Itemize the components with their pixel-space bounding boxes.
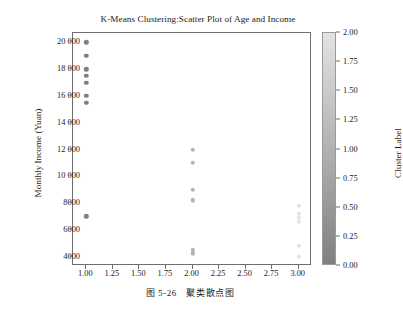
colorbar-tick-label: 0.75 (343, 173, 358, 182)
x-axis-tick-mark (245, 265, 246, 269)
plot-area (72, 32, 311, 265)
scatter-point (297, 254, 301, 258)
y-axis-tick-mark (68, 228, 72, 229)
colorbar (322, 32, 336, 265)
y-axis-tick-mark (68, 94, 72, 95)
colorbar-gradient (322, 32, 336, 265)
x-axis-tick-mark (138, 265, 139, 269)
x-axis-tick-mark (192, 265, 193, 269)
y-axis-label: Monthly Income (Yuan) (33, 53, 43, 253)
colorbar-tick-mark (336, 32, 340, 33)
x-axis-tick-mark (218, 265, 219, 269)
scatter-point (297, 220, 301, 224)
y-axis-tick-mark (68, 148, 72, 149)
y-axis-tick-mark (68, 255, 72, 256)
scatter-point (297, 204, 301, 208)
scatter-points-layer (73, 33, 310, 264)
x-axis-tick-mark (298, 265, 299, 269)
colorbar-label: Cluster Label (393, 73, 403, 233)
scatter-point (84, 100, 88, 104)
colorbar-tick-mark (336, 265, 340, 266)
y-axis-tick-mark (68, 175, 72, 176)
x-axis-tick-label: 1.75 (158, 269, 173, 278)
scatter-point (84, 94, 88, 98)
scatter-point (84, 80, 88, 84)
colorbar-tick-mark (336, 177, 340, 178)
colorbar-tick-label: 0.25 (343, 231, 358, 240)
x-axis-tick-label: 1.50 (131, 269, 146, 278)
colorbar-tick-label: 1.00 (343, 144, 358, 153)
y-axis-tick-mark (68, 41, 72, 42)
x-axis-tick-label: 3.00 (290, 269, 305, 278)
colorbar-tick-mark (336, 61, 340, 62)
colorbar-tick-mark (336, 148, 340, 149)
scatter-point (190, 161, 194, 165)
scatter-point (84, 67, 88, 71)
colorbar-tick-label: 2.00 (343, 28, 358, 37)
y-axis-tick-mark (68, 202, 72, 203)
colorbar-tick-mark (336, 90, 340, 91)
scatter-point (190, 252, 194, 256)
figure-caption: 图 5-26 聚类散点图 (0, 286, 380, 299)
x-axis-tick-label: 2.25 (211, 269, 226, 278)
colorbar-tick-mark (336, 206, 340, 207)
x-axis-tick-mark (112, 265, 113, 269)
x-axis-tick-label: 1.00 (78, 269, 93, 278)
scatter-point (84, 40, 88, 44)
scatter-point (297, 244, 301, 248)
scatter-point (84, 74, 88, 78)
scatter-point (190, 147, 194, 151)
scatter-point (190, 198, 194, 202)
colorbar-tick-label: 1.50 (343, 86, 358, 95)
scatter-point (84, 54, 88, 58)
colorbar-tick-mark (336, 235, 340, 236)
colorbar-tick-label: 1.25 (343, 115, 358, 124)
y-axis-tick-mark (68, 121, 72, 122)
chart-title: K-Means Clustering:Scatter Plot of Age a… (0, 14, 396, 24)
x-axis-tick-label: 2.00 (184, 269, 199, 278)
scatter-point (84, 214, 88, 218)
x-axis-tick-mark (271, 265, 272, 269)
x-axis-tick-label: 2.50 (237, 269, 252, 278)
y-axis-tick-mark (68, 68, 72, 69)
colorbar-tick-label: 1.75 (343, 57, 358, 66)
colorbar-tick-label: 0.00 (343, 261, 358, 270)
scatter-point (190, 187, 194, 191)
colorbar-tick-label: 0.50 (343, 202, 358, 211)
x-axis-tick-label: 2.75 (264, 269, 279, 278)
x-axis-tick-mark (165, 265, 166, 269)
colorbar-tick-mark (336, 119, 340, 120)
x-axis-tick-mark (85, 265, 86, 269)
x-axis-tick-label: 1.25 (105, 269, 120, 278)
